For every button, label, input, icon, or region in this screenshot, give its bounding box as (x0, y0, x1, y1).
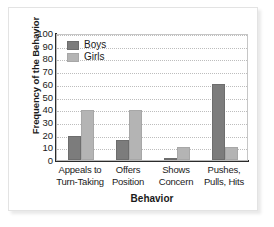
bar-boys-1 (116, 140, 129, 160)
y-axis-tick-labels: 1009080706050403020100 (24, 34, 53, 161)
x-category-line: Appeals to (56, 164, 104, 176)
y-tick-label: 40 (27, 105, 53, 115)
y-tick-label: 80 (27, 55, 53, 65)
y-tick-label: 60 (27, 80, 53, 90)
y-tick-label: 20 (27, 131, 53, 141)
legend-swatch-girls (67, 53, 79, 62)
gridline (57, 35, 247, 36)
bar-boys-3 (212, 84, 225, 160)
legend-label-boys: Boys (84, 40, 106, 50)
bar-girls-2 (177, 147, 190, 160)
gridline (57, 73, 247, 74)
x-category-line: Shows (152, 164, 200, 176)
plot-area: Boys Girls (56, 34, 248, 161)
legend-item-girls: Girls (67, 52, 106, 62)
x-axis-title: Behavior (56, 193, 248, 204)
bar-boys-2 (164, 158, 177, 160)
y-tick-label: 70 (27, 67, 53, 77)
y-tick-label: 50 (27, 93, 53, 103)
legend-swatch-boys (67, 41, 79, 50)
y-tick-label: 10 (27, 144, 53, 154)
x-category-label-3: Pushes,Pulls, Hits (200, 164, 248, 196)
x-category-line: Position (104, 176, 152, 188)
bar-girls-3 (225, 147, 238, 160)
x-category-line: Turn-Taking (56, 176, 104, 188)
legend-item-boys: Boys (67, 40, 106, 50)
legend-label-girls: Girls (84, 52, 105, 62)
y-tick-label: 30 (27, 118, 53, 128)
x-category-label-2: ShowsConcern (152, 164, 200, 196)
chart-figure: Frequency of the Behavior 10090807060504… (8, 7, 258, 211)
x-category-line: Offers (104, 164, 152, 176)
y-tick-label: 100 (27, 29, 53, 39)
chart-legend: Boys Girls (67, 40, 106, 64)
bar-girls-1 (129, 110, 142, 160)
bar-girls-0 (81, 110, 94, 160)
y-tick-label: 90 (27, 42, 53, 52)
y-tick-label: 0 (27, 156, 53, 166)
x-category-label-0: Appeals toTurn-Taking (56, 164, 104, 196)
bar-boys-0 (68, 136, 81, 160)
x-category-line: Pushes, (200, 164, 248, 176)
x-category-label-1: OffersPosition (104, 164, 152, 196)
x-axis-category-labels: Appeals toTurn-TakingOffersPositionShows… (56, 164, 248, 196)
x-category-line: Pulls, Hits (200, 176, 248, 188)
x-category-line: Concern (152, 176, 200, 188)
